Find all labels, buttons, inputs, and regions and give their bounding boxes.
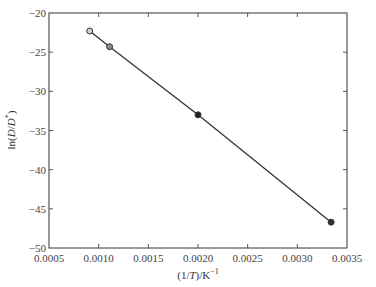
x-tick-label: 0.0025: [233, 252, 264, 264]
x-tick-label: 0.0010: [84, 252, 115, 264]
series-line: [90, 31, 331, 222]
x-tick-label: 0.0030: [282, 252, 313, 264]
x-axis-label: (1/T)/K−1: [177, 267, 219, 282]
y-axis-label: ln(D/D*): [4, 110, 18, 149]
x-axis-tick-labels: 0.00050.00100.00150.00200.00250.00300.00…: [34, 252, 363, 264]
y-tick-label: −25: [29, 46, 47, 58]
y-tick-label: −50: [29, 242, 47, 254]
x-tick-label: 0.0015: [133, 252, 164, 264]
y-tick-label: −20: [29, 7, 47, 19]
data-point-marker: [328, 219, 334, 225]
plot-area: [87, 28, 334, 225]
data-point-marker: [87, 28, 93, 34]
arrhenius-chart: 0.00050.00100.00150.00200.00250.00300.00…: [0, 0, 376, 287]
y-tick-label: −45: [29, 203, 47, 215]
x-tick-label: 0.0020: [183, 252, 214, 264]
data-point-marker: [195, 112, 201, 118]
y-tick-label: −30: [29, 85, 47, 97]
y-tick-label: −40: [29, 164, 47, 176]
y-axis-tick-labels: −20−25−30−35−40−45−50: [29, 7, 47, 254]
data-point-marker: [107, 44, 113, 50]
y-tick-label: −35: [29, 125, 47, 137]
x-tick-label: 0.0035: [332, 252, 363, 264]
plot-frame: [49, 13, 347, 248]
axis-ticks: [49, 13, 347, 248]
